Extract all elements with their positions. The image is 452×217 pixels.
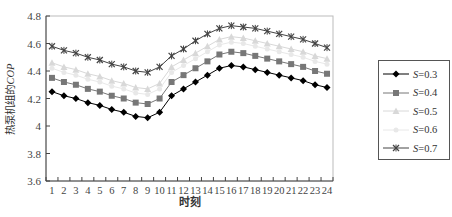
axes: 3.63.844.24.44.64.8123456789101112131415… xyxy=(27,10,333,196)
x-tick-label: 8 xyxy=(133,185,138,196)
x-tick-label: 9 xyxy=(145,185,150,196)
y-tick-label: 4.2 xyxy=(27,93,41,105)
triangle-marker-icon xyxy=(383,105,409,117)
x-tick-label: 10 xyxy=(154,185,165,196)
x-tick-label: 7 xyxy=(121,185,126,196)
y-tick-label: 4.8 xyxy=(27,10,41,22)
x-tick-label: 11 xyxy=(167,185,177,196)
x-tick-label: 18 xyxy=(250,185,261,196)
x-tick-label: 21 xyxy=(286,185,297,196)
y-tick-label: 4.4 xyxy=(27,65,41,77)
x-tick-label: 12 xyxy=(178,185,189,196)
x-tick-label: 6 xyxy=(109,185,114,196)
legend-item: S=0.5 xyxy=(383,102,445,121)
x-tick-label: 2 xyxy=(61,185,66,196)
legend-label: S=0.4 xyxy=(413,87,437,98)
x-tick-label: 20 xyxy=(274,185,285,196)
y-tick-label: 4.6 xyxy=(27,38,41,50)
legend-label: S=0.7 xyxy=(413,143,437,154)
legend: S=0.3S=0.4S=0.5S=0.6S=0.7 xyxy=(378,60,450,160)
x-tick-label: 15 xyxy=(214,185,225,196)
legend-item: S=0.3 xyxy=(383,65,445,84)
x-tick-label: 17 xyxy=(238,185,249,196)
y-tick-label: 3.8 xyxy=(27,148,41,160)
dot-marker-icon xyxy=(383,124,409,136)
star-marker-icon xyxy=(383,142,409,154)
series-s-0-7 xyxy=(49,22,330,76)
x-tick-label: 16 xyxy=(226,185,237,196)
x-tick-label: 22 xyxy=(298,185,309,196)
x-axis-label: 时刻 xyxy=(179,195,201,208)
legend-label: S=0.5 xyxy=(413,106,437,117)
x-tick-label: 1 xyxy=(49,185,54,196)
x-tick-label: 4 xyxy=(85,185,91,196)
x-tick-label: 19 xyxy=(262,185,273,196)
y-axis-label: 热泵机组的COP xyxy=(4,63,16,135)
x-tick-label: 14 xyxy=(202,185,213,196)
legend-item: S=0.6 xyxy=(383,121,445,140)
y-tick-label: 3.6 xyxy=(27,175,41,187)
x-tick-label: 24 xyxy=(322,185,333,196)
x-tick-label: 13 xyxy=(190,185,201,196)
y-tick-label: 4 xyxy=(36,120,42,132)
x-tick-label: 5 xyxy=(97,185,102,196)
legend-label: S=0.3 xyxy=(413,69,437,80)
legend-label: S=0.6 xyxy=(413,124,437,135)
square-marker-icon xyxy=(383,87,409,99)
x-tick-label: 23 xyxy=(310,185,321,196)
series-group xyxy=(48,22,330,121)
diamond-marker-icon xyxy=(383,68,409,80)
legend-item: S=0.7 xyxy=(383,139,445,158)
x-tick-label: 3 xyxy=(73,185,78,196)
legend-item: S=0.4 xyxy=(383,84,445,103)
